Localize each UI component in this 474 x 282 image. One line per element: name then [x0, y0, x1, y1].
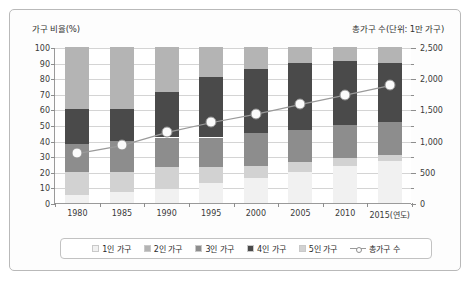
legend-label: 5인 가구 — [309, 243, 338, 254]
legend-item[interactable]: 4인 가구 — [247, 243, 286, 254]
line-point — [250, 108, 261, 119]
x-tick-mark — [100, 203, 101, 207]
left-tick-label: 0 — [45, 200, 50, 209]
left-tick-label: 80 — [40, 75, 50, 84]
legend-swatch-icon — [144, 245, 151, 252]
left-tick-label: 70 — [40, 90, 50, 99]
legend-swatch-icon — [299, 245, 306, 252]
legend-label: 3인 가구 — [205, 243, 234, 254]
left-tick-label: 50 — [40, 122, 50, 131]
legend-label: 2인 가구 — [154, 243, 183, 254]
x-tick-label: 1990 — [156, 209, 176, 218]
right-tick-label: 500 — [420, 168, 435, 177]
x-tick-mark — [189, 203, 190, 207]
legend-item[interactable]: 2인 가구 — [144, 243, 183, 254]
legend-label: 1인 가구 — [102, 243, 131, 254]
legend-item[interactable]: 총가구 수 — [350, 243, 400, 254]
legend-item[interactable]: 1인 가구 — [92, 243, 131, 254]
left-tick-label: 20 — [40, 168, 50, 177]
line-point — [206, 117, 217, 128]
left-tick-label: 90 — [40, 59, 50, 68]
x-tick-label: 1980 — [67, 209, 87, 218]
right-tick-mark — [411, 110, 416, 111]
right-axis-caption: 총가구 수(단위: 1만 가구) — [352, 22, 444, 34]
right-tick-mark — [411, 157, 414, 158]
right-tick-label: 2,000 — [420, 75, 443, 84]
legend-swatch-icon — [247, 245, 254, 252]
x-tick-mark — [323, 203, 324, 207]
right-tick-mark — [411, 188, 414, 189]
right-tick-mark — [411, 48, 416, 49]
x-tick-mark — [278, 203, 279, 207]
line-point — [384, 80, 395, 91]
total-households-line — [55, 48, 411, 203]
x-tick-mark — [412, 203, 413, 207]
legend-swatch-icon — [92, 245, 99, 252]
chart-frame: 가구 비율(%) 총가구 수(단위: 1만 가구) 01020304050607… — [9, 9, 461, 271]
left-tick-label: 10 — [40, 184, 50, 193]
x-tick-mark — [144, 203, 145, 207]
right-tick-mark — [411, 64, 414, 65]
right-tick-label: 1,500 — [420, 106, 443, 115]
right-tick-label: 1,000 — [420, 137, 443, 146]
left-axis-caption: 가구 비율(%) — [32, 22, 80, 34]
right-tick-label: 0 — [420, 200, 425, 209]
legend-swatch-icon — [195, 245, 202, 252]
legend-item[interactable]: 5인 가구 — [299, 243, 338, 254]
right-tick-mark — [411, 173, 416, 174]
legend-label: 총가구 수 — [369, 243, 400, 254]
right-tick-mark — [411, 79, 416, 80]
left-tick-label: 100 — [35, 44, 50, 53]
x-tick-label: 1985 — [112, 209, 132, 218]
right-tick-label: 2,500 — [420, 44, 443, 53]
line-point — [72, 148, 83, 159]
x-tick-label: 1995 — [201, 209, 221, 218]
x-tick-label: 2000 — [246, 209, 266, 218]
left-tick-label: 60 — [40, 106, 50, 115]
line-point — [116, 140, 127, 151]
x-tick-mark — [367, 203, 368, 207]
legend-item[interactable]: 3인 가구 — [195, 243, 234, 254]
right-tick-mark — [411, 95, 414, 96]
line-point — [340, 89, 351, 100]
x-tick-label: 2005 — [290, 209, 310, 218]
left-tick-label: 30 — [40, 153, 50, 162]
plot-area: 0102030405060708090100 05001,0001,5002,0… — [54, 48, 411, 204]
line-point — [295, 98, 306, 109]
legend-line-marker-icon — [350, 245, 366, 252]
left-tick-label: 40 — [40, 137, 50, 146]
line-point — [161, 127, 172, 138]
right-tick-mark — [411, 126, 414, 127]
x-tick-label: 2015(연도) — [369, 209, 410, 220]
x-tick-mark — [55, 203, 56, 207]
legend-label: 4인 가구 — [257, 243, 286, 254]
right-tick-mark — [411, 142, 416, 143]
x-tick-label: 2010 — [335, 209, 355, 218]
x-tick-mark — [234, 203, 235, 207]
chart-legend: 1인 가구2인 가구3인 가구4인 가구5인 가구총가구 수 — [60, 238, 432, 259]
